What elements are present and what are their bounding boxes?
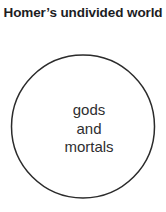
figure-container: Homer’s undivided world gods and mortals [0, 0, 166, 212]
set-label-line-2: and [19, 120, 159, 139]
set-label-line-3: mortals [19, 138, 159, 157]
set-circle-label: gods and mortals [19, 101, 159, 157]
set-label-line-1: gods [19, 101, 159, 120]
